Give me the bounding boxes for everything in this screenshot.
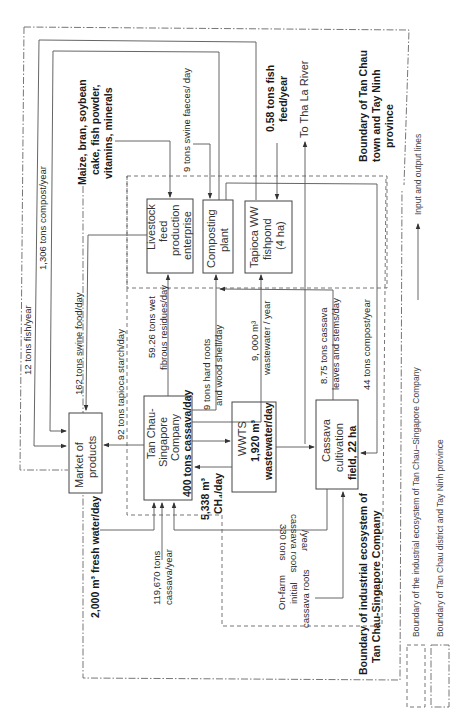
legend-dashdot-swatch xyxy=(431,645,449,707)
ch4-flow-label: 5,338 m³CH₄/day xyxy=(199,473,224,520)
fish-flow-label: 12 tons fish/year xyxy=(22,305,33,375)
province-boundary-label: Boundary of Tan Chautown and Tay Ninhpro… xyxy=(357,50,395,162)
cassava-year-flow-label: 119,670 tonscassava/year xyxy=(151,549,174,605)
ww-year-flow-label: 9, 000 m³wastewater / year xyxy=(249,301,272,376)
roots-line xyxy=(174,489,327,530)
legend-district: Boundary of Tan Chau district and Tay Ni… xyxy=(435,439,445,637)
starch-flow-label: 92 tons tapioca starch/day xyxy=(115,329,126,440)
compost-market-flow-label: 1,306 tons compost/year xyxy=(37,166,48,270)
legend-industrial: Boundary of the industrial ecosystem of … xyxy=(411,367,421,637)
legend-dashed-swatch xyxy=(407,645,425,707)
river-flow-label: To Tha La River xyxy=(298,60,310,138)
feed-ingredients-label: Maize, bran, soybeancake, fish powder,vi… xyxy=(76,79,114,185)
leaves-line xyxy=(220,289,333,400)
onfarm-line xyxy=(315,492,343,598)
faeces-flow-label: 9 tons swine faeces/ day xyxy=(181,68,192,172)
company-boundary-label: Boundary of industrial ecosystem ofTan C… xyxy=(357,492,382,675)
residue-flow-label: 59.26 tons wetfibrous residues/day xyxy=(146,285,169,370)
fresh-water-flow-label: 2,000 m³ fresh water/day xyxy=(89,496,101,618)
faeces-line xyxy=(193,144,210,198)
legend-io-lines: Input and output lines xyxy=(413,134,423,215)
industrial-ecosystem-diagram: Market ofproducts Livestockfeedproductio… xyxy=(0,0,467,720)
compost-field-flow-label: 44 tons compost/year xyxy=(361,299,372,390)
leaves-flow-label: 8.75 tons cassavaleaves and stems/day xyxy=(318,298,341,390)
roots-flow-label: 330 tonscassava roots/year xyxy=(278,514,311,573)
swine-food-flow-label: 162 tons swine food/day xyxy=(73,292,84,395)
onfarm-label: On-farminitialcassava roots xyxy=(276,569,311,628)
fishfeed-flow-label: 0.58 tons fishfeed/year xyxy=(264,65,289,132)
feed-input-line xyxy=(115,141,170,197)
hard-roots-flow-label: 9 tons hard rootsand wood shell/day xyxy=(201,324,224,410)
